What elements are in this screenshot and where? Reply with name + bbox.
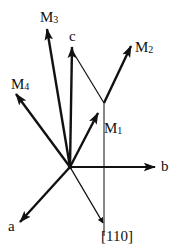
construction-line-c-to-m1 [73,52,104,103]
vector-m1 [70,113,98,167]
vector-c [70,47,72,167]
vector-m4 [16,94,70,167]
label-m3: M3 [40,9,58,25]
label-a: a [8,218,15,234]
vector-a [20,167,70,222]
crystal-axes-diagram: M3 c M2 M4 M1 b a [110] [0,0,180,251]
vector-110 [70,167,103,223]
label-110: [110] [101,228,133,244]
vector-m3 [47,29,70,167]
label-b: b [161,158,169,174]
label-m4: M4 [11,76,29,92]
label-m1: M1 [104,120,122,136]
origin-point [68,165,72,169]
label-c: c [69,28,76,44]
label-m2: M2 [135,39,153,55]
vector-m2 [104,46,131,103]
